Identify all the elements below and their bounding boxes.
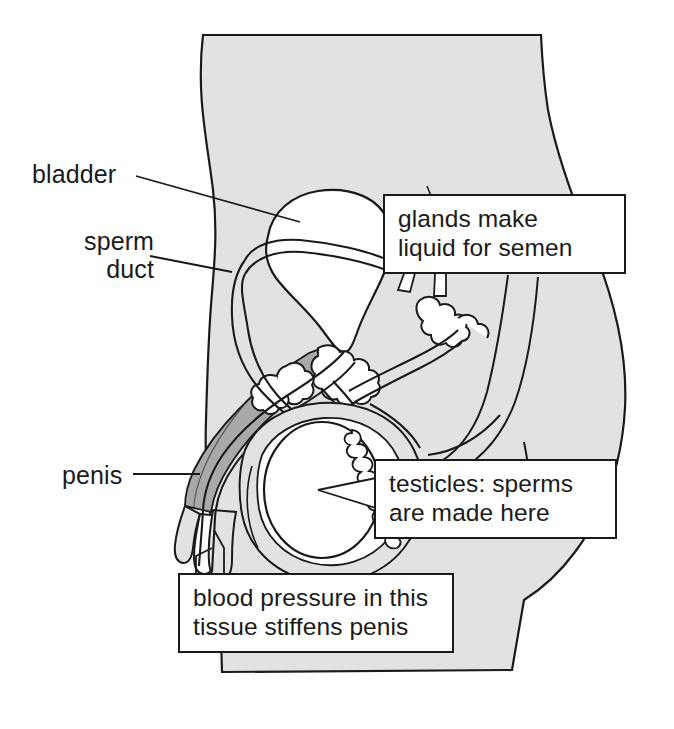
diagram-canvas: bladder sperm duct penis glands make liq…: [0, 0, 674, 729]
label-penis: penis: [62, 461, 122, 489]
penis-shaft: [175, 506, 236, 580]
label-sperm-duct: sperm duct: [48, 227, 154, 283]
callout-blood-pressure-stiffens-penis: blood pressure in this tissue stiffens p…: [178, 573, 454, 653]
callout-testicles-sperms-are-made-here: testicles: sperms are made here: [374, 459, 617, 539]
callout-glands-make-liquid-for-semen: glands make liquid for semen: [383, 194, 626, 274]
label-bladder: bladder: [32, 160, 116, 188]
